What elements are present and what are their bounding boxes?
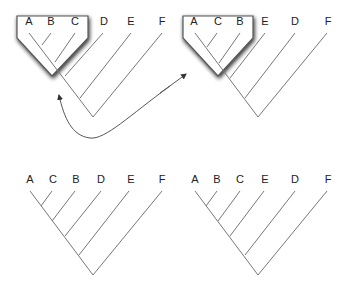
- tip-label: C: [236, 173, 244, 185]
- tip-label: F: [159, 15, 166, 27]
- tip-label: A: [191, 173, 199, 185]
- tip-label: F: [159, 173, 166, 185]
- cladogram-figure: A B C D E F A C B E D F A C B D E F: [0, 0, 347, 291]
- tip-label: E: [127, 15, 134, 27]
- branch-f: [93, 33, 162, 117]
- tree-top-left: A B C D E F: [17, 15, 166, 117]
- branch-f: [258, 191, 327, 275]
- branch-d: [245, 191, 295, 255]
- branch-e: [79, 191, 129, 255]
- tip-label: F: [325, 173, 332, 185]
- branch-c: [218, 191, 240, 221]
- tip-label: B: [236, 15, 243, 27]
- tip-label: F: [325, 15, 332, 27]
- tip-label: D: [291, 15, 299, 27]
- tip-label: C: [214, 15, 222, 27]
- branch-a: [195, 191, 258, 275]
- branch-e: [80, 33, 131, 98]
- swap-arrow-head-right: [160, 74, 186, 93]
- branch-f: [93, 191, 162, 275]
- branch-c: [41, 191, 52, 206]
- branch-a: [30, 191, 93, 275]
- tip-label: B: [47, 15, 54, 27]
- tip-label: A: [190, 15, 198, 27]
- tip-label: A: [26, 173, 34, 185]
- tip-label: A: [25, 15, 33, 27]
- tree-top-right: A C B E D F: [183, 15, 332, 117]
- branch-f: [258, 33, 327, 117]
- branch-b: [52, 191, 75, 221]
- tip-label: E: [261, 15, 268, 27]
- tip-label: C: [49, 173, 57, 185]
- tip-label: E: [127, 173, 134, 185]
- branch-d: [245, 33, 295, 98]
- tip-label: D: [291, 173, 299, 185]
- tip-label: D: [100, 15, 108, 27]
- tree-bottom-right: A B C E D F: [191, 173, 331, 275]
- branch-b: [206, 191, 217, 206]
- tip-label: D: [97, 173, 105, 185]
- tree-bottom-left: A C B D E F: [26, 173, 165, 275]
- tip-label: E: [261, 173, 268, 185]
- tip-label: B: [72, 173, 79, 185]
- tip-label: C: [71, 15, 79, 27]
- tip-label: B: [213, 173, 220, 185]
